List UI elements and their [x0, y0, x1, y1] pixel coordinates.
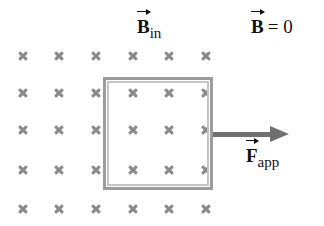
field-into-page-x-icon — [91, 88, 101, 98]
vector-arrow-icon — [246, 140, 258, 141]
field-into-page-x-icon — [91, 125, 101, 135]
conducting-loop — [103, 77, 213, 190]
field-into-page-x-icon — [91, 204, 101, 214]
f-app-subscript: app — [258, 154, 280, 170]
field-into-page-x-icon — [201, 204, 211, 214]
field-into-page-x-icon — [54, 165, 64, 175]
field-into-page-x-icon — [18, 51, 28, 61]
b-zero-equation: = 0 — [268, 16, 293, 37]
diagram-canvas: Bin B = 0 Fapp — [0, 0, 324, 226]
applied-force-arrow-head-icon — [270, 126, 289, 142]
field-into-page-x-icon — [91, 51, 101, 61]
b-in-label: Bin — [137, 16, 161, 42]
field-into-page-x-icon — [18, 165, 28, 175]
field-into-page-x-icon — [128, 51, 138, 61]
field-into-page-x-icon — [18, 125, 28, 135]
field-into-page-x-icon — [54, 88, 64, 98]
field-into-page-x-icon — [91, 165, 101, 175]
vector-arrow-icon — [251, 11, 264, 12]
field-into-page-x-icon — [164, 204, 174, 214]
field-into-page-x-icon — [54, 51, 64, 61]
field-into-page-x-icon — [201, 51, 211, 61]
b-zero-label: B = 0 — [251, 16, 293, 38]
b-in-subscript: in — [150, 25, 162, 41]
field-into-page-x-icon — [54, 125, 64, 135]
field-into-page-x-icon — [164, 51, 174, 61]
f-app-label: Fapp — [246, 145, 279, 171]
vector-arrow-icon — [137, 11, 150, 12]
field-into-page-x-icon — [18, 204, 28, 214]
field-into-page-x-icon — [128, 204, 138, 214]
field-into-page-x-icon — [18, 88, 28, 98]
applied-force-arrow-shaft — [213, 132, 271, 137]
field-into-page-x-icon — [54, 204, 64, 214]
